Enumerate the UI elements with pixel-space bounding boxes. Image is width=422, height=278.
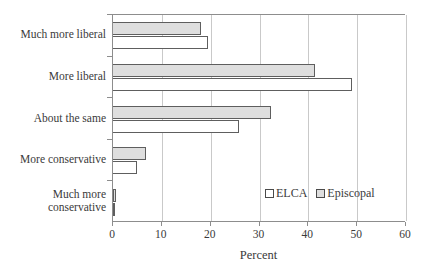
x-tick-label-50: 50 xyxy=(336,228,376,240)
bar-episcopal-3 xyxy=(113,147,146,160)
y-axis-label-0: Much more liberal xyxy=(0,28,106,41)
bar-elca-1 xyxy=(113,78,352,91)
y-axis-label-2: About the same xyxy=(0,112,106,125)
x-tick-label-30: 30 xyxy=(239,228,279,240)
x-tick-20 xyxy=(210,222,211,226)
x-tick-60 xyxy=(405,222,406,226)
legend-swatch-elca xyxy=(265,189,274,198)
bar-elca-0 xyxy=(113,36,208,49)
bar-episcopal-0 xyxy=(113,22,201,35)
bar-elca-4 xyxy=(113,203,115,216)
bar-elca-3 xyxy=(113,161,137,174)
bar-episcopal-2 xyxy=(113,106,271,119)
bar-elca-2 xyxy=(113,120,239,133)
y-tick-4 xyxy=(107,180,112,181)
bar-episcopal-1 xyxy=(113,64,315,77)
legend-label-episcopal: Episcopal xyxy=(327,186,374,201)
x-tick-label-0: 0 xyxy=(92,228,132,240)
y-axis-label-4: Much more conservative xyxy=(0,188,106,214)
legend-item-elca: ELCA xyxy=(265,186,307,201)
x-tick-30 xyxy=(259,222,260,226)
x-tick-label-20: 20 xyxy=(190,228,230,240)
x-tick-40 xyxy=(307,222,308,226)
legend-label-elca: ELCA xyxy=(276,186,307,201)
bar-episcopal-4 xyxy=(113,189,116,202)
y-tick-0 xyxy=(107,14,112,15)
gridline-60 xyxy=(406,15,407,221)
x-tick-50 xyxy=(356,222,357,226)
chart-legend: ELCA Episcopal xyxy=(265,186,375,201)
bar-chart: Much more liberalMore liberalAbout the s… xyxy=(0,0,422,278)
x-tick-label-40: 40 xyxy=(287,228,327,240)
y-axis-label-1: More liberal xyxy=(0,70,106,83)
y-tick-3 xyxy=(107,139,112,140)
x-tick-10 xyxy=(161,222,162,226)
x-tick-label-60: 60 xyxy=(385,228,422,240)
y-axis-label-3: More conservative xyxy=(0,153,106,166)
x-axis-title: Percent xyxy=(112,248,405,263)
y-tick-2 xyxy=(107,97,112,98)
y-tick-1 xyxy=(107,56,112,57)
legend-item-episcopal: Episcopal xyxy=(316,186,374,201)
legend-swatch-episcopal xyxy=(316,189,325,198)
x-tick-label-10: 10 xyxy=(141,228,181,240)
x-tick-0 xyxy=(112,222,113,226)
